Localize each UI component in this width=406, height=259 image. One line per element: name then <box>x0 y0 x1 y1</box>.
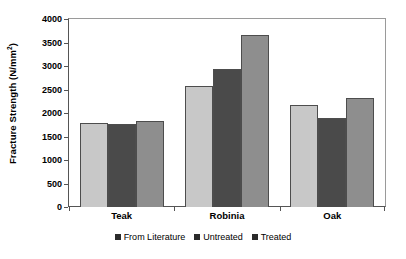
bar-group-oak <box>290 19 374 207</box>
legend-square-icon <box>194 234 200 240</box>
y-axis-tick-label: 4000 <box>26 14 62 24</box>
chart-legend: From LiteratureUntreatedTreated <box>0 232 406 242</box>
y-axis-tick-label: 2000 <box>26 108 62 118</box>
bar[interactable] <box>185 86 213 207</box>
y-axis-tick-label: 0 <box>26 202 62 212</box>
legend-square-icon <box>252 234 258 240</box>
legend-item[interactable]: From Literature <box>115 232 186 242</box>
bar[interactable] <box>108 124 136 207</box>
y-axis-tick-label: 1500 <box>26 132 62 142</box>
x-axis-category-label: Robinia <box>210 210 245 221</box>
y-axis-tick-label: 3500 <box>26 38 62 48</box>
y-axis-tick-label: 500 <box>26 179 62 189</box>
fracture-strength-bar-chart: Fracture Strength (N/mm2) 05001000150020… <box>0 0 406 259</box>
y-axis-tick-label: 1000 <box>26 155 62 165</box>
bar-group-teak <box>80 19 164 207</box>
x-axis-category-label: Oak <box>323 210 341 221</box>
bar[interactable] <box>136 121 164 207</box>
bar[interactable] <box>80 123 108 207</box>
y-axis-tick-label: 3000 <box>26 61 62 71</box>
bars-layer <box>69 19 385 207</box>
y-axis-tick-label: 2500 <box>26 85 62 95</box>
bar[interactable] <box>346 98 374 207</box>
bar[interactable] <box>213 69 241 207</box>
y-axis-tick-mark <box>64 207 68 208</box>
x-axis-category-label: Teak <box>111 210 132 221</box>
y-axis-ticks: 05001000150020002500300035004000 <box>0 0 68 259</box>
bar-group-robinia <box>185 19 269 207</box>
legend-square-icon <box>115 234 121 240</box>
legend-item-label: Treated <box>261 232 292 242</box>
legend-item[interactable]: Treated <box>252 232 292 242</box>
legend-item[interactable]: Untreated <box>194 232 243 242</box>
legend-item-label: Untreated <box>203 232 243 242</box>
legend-item-label: From Literature <box>124 232 186 242</box>
bar[interactable] <box>241 35 269 207</box>
bar[interactable] <box>318 118 346 207</box>
bar[interactable] <box>290 105 318 207</box>
x-axis-category-labels: TeakRobiniaOak <box>69 210 385 226</box>
